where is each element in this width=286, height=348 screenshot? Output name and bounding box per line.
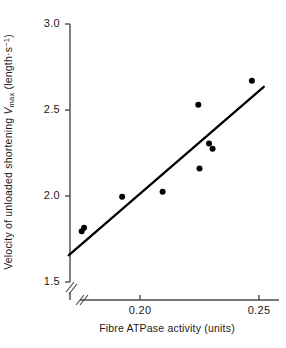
data-point bbox=[206, 141, 212, 147]
x-tick-label: 0.20 bbox=[120, 304, 160, 316]
y-axis-title-units-close: ) bbox=[2, 34, 14, 38]
data-point bbox=[249, 78, 255, 84]
regression-line bbox=[69, 87, 264, 256]
x-axis-title: Fibre ATPase activity (units) bbox=[52, 322, 282, 334]
y-tick-label: 2.0 bbox=[26, 189, 60, 201]
y-axis-title-subscript: max bbox=[7, 93, 16, 108]
y-tick-label: 2.5 bbox=[26, 103, 60, 115]
y-axis-ticks bbox=[65, 24, 70, 282]
plot-canvas bbox=[0, 0, 286, 348]
x-tick-label: 0.25 bbox=[239, 304, 279, 316]
y-axis-title-units-s: s bbox=[2, 47, 14, 52]
y-axis-title-pre: Velocity of unloaded shortening bbox=[2, 115, 14, 270]
data-point bbox=[197, 165, 203, 171]
y-axis-title-units-open: (length bbox=[2, 56, 14, 93]
y-axis-title-units-dot: · bbox=[2, 52, 14, 56]
x-axis-ticks bbox=[140, 295, 259, 300]
data-point bbox=[119, 194, 125, 200]
y-axis-title-symbol: V bbox=[2, 107, 14, 114]
data-point bbox=[81, 225, 87, 231]
data-point-group bbox=[79, 78, 255, 235]
y-tick-label: 1.5 bbox=[26, 275, 60, 287]
data-point bbox=[210, 146, 216, 152]
y-tick-label: 3.0 bbox=[26, 17, 60, 29]
figure-scatter-plot: 1.52.02.53.0 0.200.25 Fibre ATPase activ… bbox=[0, 0, 286, 348]
data-point bbox=[160, 189, 166, 195]
y-axis-break-marks bbox=[66, 282, 77, 294]
data-point bbox=[195, 102, 201, 108]
y-axis-title-units-exponent: −1 bbox=[2, 38, 11, 47]
